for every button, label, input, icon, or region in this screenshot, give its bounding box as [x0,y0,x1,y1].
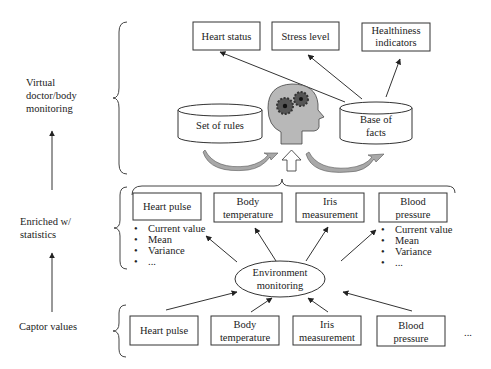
svg-text:•: • [134,223,138,234]
svg-text:Body: Body [234,319,258,330]
side-label-level2: Enriched w/ statistics [20,216,71,240]
arrow-env-to-heart-pulse [206,236,237,262]
enriched-stats-list-left: •Current value •Mean •Variance •... [134,223,206,267]
svg-text:statistics: statistics [20,229,56,240]
svg-text:Variance: Variance [395,246,432,257]
captor-body-temperature-box: Body temperature [211,316,279,345]
side-label-level1: Captor values [19,321,77,332]
brace-level2 [114,187,127,269]
svg-text:Iris: Iris [323,196,337,207]
svg-text:Heart pulse: Heart pulse [143,201,191,212]
svg-text:monitoring: monitoring [26,103,73,114]
arrow-to-healthiness [386,59,400,97]
arrow-body-temp-to-env [251,298,272,312]
enriched-body-temperature-box: Body temperature [214,193,282,222]
svg-text:Iris: Iris [320,319,334,330]
curved-arrow-rules-to-head [203,150,278,171]
svg-text:•: • [381,246,385,257]
svg-text:Healthiness: Healthiness [372,25,421,36]
svg-text:Blood: Blood [398,320,424,331]
brace-level3 [113,22,127,174]
curved-arrow-head-to-facts [306,152,384,172]
svg-text:...: ... [395,257,403,268]
svg-text:Mean: Mean [148,234,173,245]
arrow-env-to-blood-pressure [341,230,376,261]
svg-text:temperature: temperature [223,209,273,220]
more-captors-ellipsis: ... [464,327,472,338]
svg-text:indicators: indicators [375,37,416,48]
side-label-level3: Virtual doctor/body monitoring [26,77,77,114]
svg-text:•: • [381,257,385,268]
captor-iris-measurement-box: Iris measurement [293,316,361,345]
svg-text:pressure: pressure [396,209,431,220]
svg-text:doctor/body: doctor/body [26,90,77,101]
enriched-heart-pulse-box: Heart pulse [133,193,201,220]
arrow-env-to-iris [306,227,328,261]
arrow-to-stress-level [308,55,362,99]
svg-text:Enriched w/: Enriched w/ [20,216,71,227]
svg-text:measurement: measurement [302,209,358,220]
captor-heart-pulse-box: Heart pulse [130,316,198,345]
monitoring-architecture-diagram: Virtual doctor/body monitoring Enriched … [0,0,491,369]
svg-text:Set of rules: Set of rules [196,120,244,131]
svg-text:Mean: Mean [395,235,420,246]
svg-text:Body: Body [237,196,261,207]
set-of-rules-database: Set of rules [178,104,262,143]
hollow-up-arrow-icon [282,150,301,171]
healthiness-indicators-box: Healthiness indicators [362,23,430,51]
heart-status-box: Heart status [193,22,260,50]
enriched-iris-measurement-box: Iris measurement [296,193,364,222]
svg-text:temperature: temperature [220,332,270,343]
svg-text:•: • [381,224,385,235]
brace-level1 [113,305,126,357]
svg-text:Blood: Blood [400,196,426,207]
arrow-iris-to-env [308,298,328,312]
base-of-facts-database: Base of facts [340,102,412,144]
stress-level-box: Stress level [272,22,339,50]
enriched-blood-pressure-box: Blood pressure [379,193,447,222]
svg-text:Base of: Base of [360,114,392,125]
enriched-stats-list-right: •Current value •Mean •Variance •... [381,224,453,268]
svg-text:Stress level: Stress level [281,31,329,42]
svg-text:•: • [134,256,138,267]
arrow-env-to-body-temp [255,228,276,261]
svg-text:•: • [134,234,138,245]
svg-text:monitoring: monitoring [257,280,304,291]
svg-text:measurement: measurement [299,332,355,343]
environment-monitoring-node: Environment monitoring [235,261,325,297]
svg-text:...: ... [148,256,156,267]
svg-text:Current value: Current value [148,223,206,234]
captor-blood-pressure-box: Blood pressure [377,316,445,346]
svg-text:facts: facts [366,127,386,138]
svg-text:pressure: pressure [394,333,429,344]
inference-engine-head-icon [268,84,324,144]
svg-text:Environment: Environment [253,267,308,278]
svg-text:Heart status: Heart status [202,31,252,42]
arrow-blood-pressure-to-env [343,292,412,311]
gear-icon [277,98,293,114]
svg-text:Virtual: Virtual [26,77,55,88]
svg-text:•: • [134,245,138,256]
svg-text:•: • [381,235,385,246]
svg-text:Captor values: Captor values [19,321,77,332]
gear-icon [294,92,308,106]
svg-text:Current value: Current value [395,224,453,235]
arrow-heart-pulse-to-env [166,292,237,310]
svg-text:Variance: Variance [148,245,185,256]
svg-text:Heart pulse: Heart pulse [140,325,188,336]
